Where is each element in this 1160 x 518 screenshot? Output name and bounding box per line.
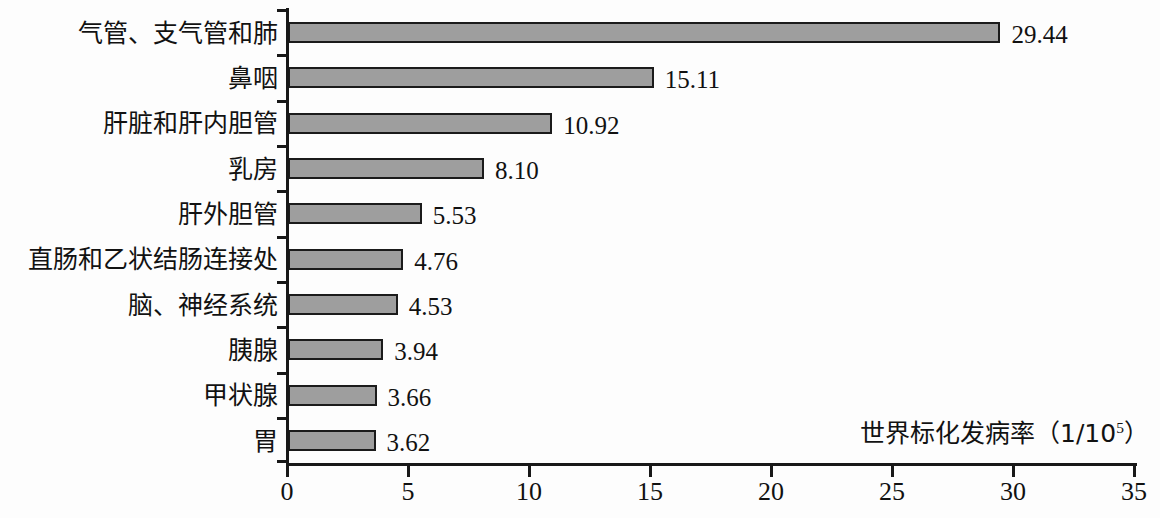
bar <box>288 294 398 315</box>
axis-title-suffix: ） <box>1124 419 1149 448</box>
bar <box>288 430 376 451</box>
x-tick-label: 30 <box>1000 479 1026 505</box>
x-tick <box>407 466 410 477</box>
bar <box>288 249 403 270</box>
y-tick <box>277 236 287 239</box>
axis-title-prefix: 世界标化发病率（1/10 <box>860 419 1116 448</box>
value-label: 15.11 <box>665 67 720 92</box>
value-label: 8.10 <box>495 158 539 183</box>
x-axis-title: 世界标化发病率（1/105） <box>860 420 1149 446</box>
y-tick <box>277 460 287 463</box>
category-label: 气管、支气管和肺 <box>0 21 278 46</box>
plot-area: 29.44 15.11 10.92 8.10 5.53 4.76 4.53 3.… <box>288 8 1135 463</box>
value-label: 5.53 <box>433 203 477 228</box>
value-label: 29.44 <box>1011 22 1067 47</box>
category-label: 肝外胆管 <box>0 202 278 227</box>
value-label: 4.76 <box>414 249 458 274</box>
bar <box>288 113 552 134</box>
category-label: 乳房 <box>0 157 278 182</box>
x-tick <box>1012 466 1015 477</box>
y-tick <box>277 54 287 57</box>
x-tick-label: 10 <box>516 479 542 505</box>
value-label: 10.92 <box>563 113 619 138</box>
x-tick <box>649 466 652 477</box>
bar <box>288 158 484 179</box>
category-label: 甲状腺 <box>0 383 278 408</box>
y-tick <box>277 145 287 148</box>
y-tick <box>277 281 287 284</box>
x-tick <box>528 466 531 477</box>
bar <box>288 22 1000 43</box>
bar-chart: 气管、支气管和肺 鼻咽 肝脏和肝内胆管 乳房 肝外胆管 直肠和乙状结肠连接处 脑… <box>0 0 1160 518</box>
category-label: 脑、神经系统 <box>0 293 278 318</box>
value-label: 3.94 <box>394 339 438 364</box>
y-tick <box>277 326 287 329</box>
x-tick <box>1133 466 1136 477</box>
value-label: 3.66 <box>388 385 432 410</box>
bar <box>288 203 422 224</box>
value-label: 3.62 <box>387 430 431 455</box>
x-axis-line <box>286 463 1137 466</box>
bar <box>288 67 654 88</box>
x-tick <box>891 466 894 477</box>
bar <box>288 385 377 406</box>
x-tick-label: 35 <box>1121 479 1147 505</box>
x-tick-label: 0 <box>281 479 294 505</box>
axis-title-exponent: 5 <box>1116 419 1124 436</box>
x-tick <box>770 466 773 477</box>
value-label: 4.53 <box>409 294 453 319</box>
category-label: 直肠和乙状结肠连接处 <box>0 247 278 272</box>
category-label: 胃 <box>0 429 278 454</box>
y-tick <box>277 9 287 12</box>
x-tick-label: 5 <box>402 479 415 505</box>
y-tick <box>277 190 287 193</box>
bar <box>288 339 383 360</box>
x-tick-label: 25 <box>879 479 905 505</box>
x-tick-label: 20 <box>758 479 784 505</box>
x-tick-label: 15 <box>637 479 663 505</box>
category-label: 肝脏和肝内胆管 <box>0 111 278 136</box>
y-tick <box>277 417 287 420</box>
category-label: 胰腺 <box>0 338 278 363</box>
x-tick <box>286 466 289 477</box>
category-label: 鼻咽 <box>0 66 278 91</box>
y-tick <box>277 100 287 103</box>
y-tick <box>277 372 287 375</box>
